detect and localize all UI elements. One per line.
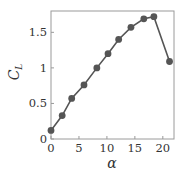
data-point-marker [93,64,100,71]
y-tick-label: 1 [40,61,47,75]
data-series [48,13,173,134]
x-axis-label: α [107,155,117,171]
data-point-marker [81,82,88,89]
x-tick-label: 20 [155,141,170,155]
data-point-marker [140,15,147,22]
data-point-marker [150,13,157,20]
y-tick-label: 0.5 [29,96,47,110]
y-axis-label: CL [6,64,24,81]
y-tick-label: 0 [40,132,47,146]
x-tick-label: 15 [128,141,143,155]
plot-frame [51,11,174,139]
y-tick-label: 1.5 [29,25,47,39]
data-point-marker [128,24,135,31]
data-point-marker [166,58,173,65]
data-point-marker [105,50,112,57]
data-point-marker [68,95,75,102]
x-tick-label: 5 [75,141,82,155]
data-point-marker [48,127,55,134]
lift-coefficient-chart: 05101520 00.511.5 α CL [0,0,184,177]
x-tick-label: 0 [47,141,54,155]
data-point-marker [59,112,66,119]
data-point-marker [115,36,122,43]
x-tick-label: 10 [100,141,115,155]
series-line [51,17,170,131]
